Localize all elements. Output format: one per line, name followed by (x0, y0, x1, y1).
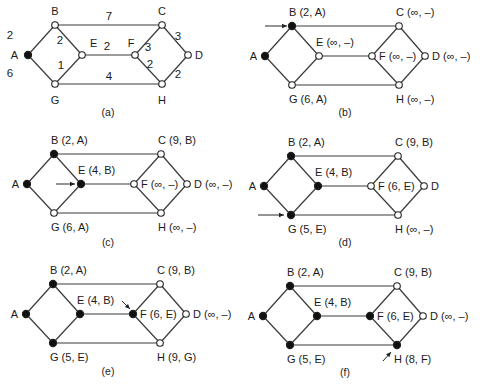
edge-B-E (292, 26, 319, 56)
node-C-tentative (157, 281, 164, 288)
node-B-permanent (287, 152, 294, 159)
node-label-E: E (4, B) (77, 294, 114, 306)
node-label-B: B (2, A) (288, 136, 325, 148)
node-label-F: F (128, 37, 135, 49)
node-label-B: B (2, A) (287, 266, 324, 278)
edge-B-E (53, 284, 80, 314)
node-label-B: B (2, A) (50, 264, 87, 276)
node-D-tentative (421, 183, 428, 190)
node-label-E: E (90, 37, 97, 49)
dijkstra-figure: 26721243322ABCDEFGH(a)AB (2, A)C (∞, –)D… (0, 0, 480, 386)
arrowhead-icon (70, 182, 75, 186)
edge-weight-C-D: 3 (175, 30, 181, 42)
edge-weight-C-F: 3 (145, 41, 151, 53)
edge-E-G (53, 314, 80, 343)
node-label-B: B (51, 5, 58, 17)
node-label-E: E (∞, –) (316, 36, 354, 48)
node-B-permanent (286, 282, 293, 289)
node-E-tentative (79, 52, 86, 59)
edge-B-E (291, 156, 318, 186)
node-D-tentative (185, 52, 192, 59)
edge-A-G (26, 314, 53, 343)
edge-weight-F-H: 2 (147, 58, 153, 70)
edge-A-G (263, 316, 290, 345)
edge-A-G (265, 56, 292, 85)
node-G-tentative (52, 81, 59, 88)
edge-weight-D-H: 2 (175, 68, 181, 80)
node-A-permanent (259, 312, 266, 319)
edge-A-G (28, 55, 55, 84)
node-label-H: H (∞, –) (158, 221, 196, 233)
edge-A-B (27, 154, 54, 184)
panel-d: AB (2, A)C (9, B)DE (4, B)F (6, E)G (5, … (249, 136, 439, 248)
node-label-H: H (∞, –) (395, 223, 433, 235)
node-label-G: G (5, E) (50, 351, 89, 363)
edge-A-G (27, 184, 54, 213)
node-F-tentative (132, 52, 139, 59)
node-label-D: D (∞, –) (430, 310, 468, 322)
node-B-permanent (288, 22, 295, 29)
node-C-tentative (159, 22, 166, 29)
node-label-F: F (∞, –) (141, 178, 178, 190)
node-label-C: C (9, B) (157, 264, 195, 276)
edge-weight-B-C: 7 (106, 10, 112, 22)
node-G-permanent (49, 339, 56, 346)
edge-A-B (26, 284, 53, 314)
node-G-tentative (51, 210, 58, 217)
node-H-tentative (395, 212, 402, 219)
node-label-H: H (158, 94, 166, 106)
node-label-G: G (5, E) (288, 223, 327, 235)
edge-B-E (290, 286, 317, 316)
node-label-D: D (431, 180, 439, 192)
node-E-permanent (314, 182, 321, 189)
node-label-F: F (∞, –) (379, 50, 416, 62)
node-label-C: C (9, B) (395, 136, 433, 148)
edge-weight-A-G: 6 (7, 67, 13, 79)
node-label-B: B (2, A) (51, 134, 88, 146)
node-B-tentative (52, 22, 59, 29)
edge-A-B (264, 156, 291, 186)
node-label-G: G (6, A) (289, 93, 327, 105)
panel-caption: (e) (102, 365, 115, 377)
node-label-B: B (2, A) (289, 6, 326, 18)
node-label-E: E (4, B) (314, 296, 351, 308)
panel-caption: (b) (339, 106, 352, 118)
panel-caption: (c) (102, 236, 114, 248)
node-label-F: F (6, E) (140, 308, 177, 320)
node-A-permanent (22, 310, 29, 317)
panel-c: AB (2, A)C (9, B)D (∞, –)E (4, B)F (∞, –… (12, 134, 233, 248)
node-B-permanent (49, 280, 56, 287)
node-G-permanent (286, 341, 293, 348)
panel-f: AB (2, A)C (9, B)D (∞, –)E (4, B)F (6, E… (248, 266, 469, 378)
node-H-tentative (159, 81, 166, 88)
node-label-E: E (4, B) (78, 164, 115, 176)
edge-A-B (263, 286, 290, 316)
panel-b: AB (2, A)C (∞, –)D (∞, –)E (∞, –)F (∞, –… (250, 6, 471, 118)
node-label-A: A (249, 180, 257, 192)
node-label-H: H (8, F) (394, 353, 431, 365)
node-E-permanent (77, 180, 84, 187)
node-A-permanent (24, 51, 31, 58)
edge-A-B (28, 25, 55, 55)
node-label-D: D (195, 49, 203, 61)
node-label-D: D (∞, –) (432, 50, 470, 62)
node-F-tentative (369, 53, 376, 60)
node-H-tentative (157, 340, 164, 347)
node-C-tentative (395, 153, 402, 160)
node-F-tentative (368, 183, 375, 190)
node-C-tentative (396, 23, 403, 30)
node-C-tentative (394, 283, 401, 290)
node-D-tentative (422, 53, 429, 60)
panel-caption: (d) (339, 236, 352, 248)
node-F-tentative (131, 181, 138, 188)
edge-A-B (265, 26, 292, 56)
node-F-permanent (129, 310, 136, 317)
node-label-D: D (∞, –) (193, 308, 231, 320)
edge-weight-E-F: 2 (104, 40, 110, 52)
edge-weight-B-E: 2 (57, 34, 63, 46)
node-label-A: A (250, 50, 258, 62)
node-E-permanent (76, 310, 83, 317)
arrowhead-icon (282, 24, 287, 28)
node-label-A: A (248, 310, 256, 322)
node-label-C: C (158, 5, 166, 17)
